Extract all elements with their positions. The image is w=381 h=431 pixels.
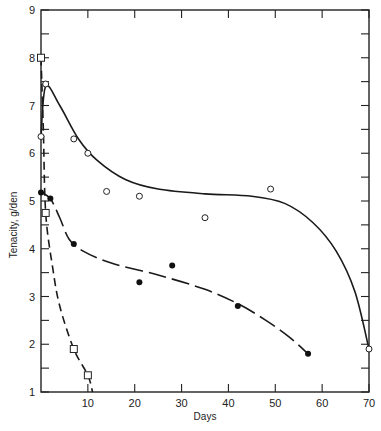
chart: 123456789 10203040506070 Days Tenacity, … — [0, 0, 381, 431]
x-tick-label: 10 — [82, 397, 94, 409]
open-circle-marker — [85, 150, 91, 156]
open-circle-marker — [104, 188, 110, 194]
open-circle-marker — [38, 134, 44, 140]
open-circle-marker — [268, 186, 274, 192]
filled-circle-marker — [169, 262, 175, 268]
plot-frame — [41, 10, 369, 392]
open-circle-marker — [366, 346, 372, 352]
x-tick-label: 40 — [222, 397, 234, 409]
y-tick-label: 2 — [29, 338, 35, 350]
y-tick-label: 6 — [29, 147, 35, 159]
y-tick-label: 1 — [29, 386, 35, 398]
filled-circle-marker — [38, 189, 44, 195]
y-tick-label: 9 — [29, 4, 35, 16]
open-circle-marker — [136, 193, 142, 199]
data-markers — [38, 54, 373, 379]
x-tick-label: 20 — [129, 397, 141, 409]
open-square-marker — [70, 346, 77, 353]
y-tick-label: 7 — [29, 100, 35, 112]
x-tick-label: 50 — [269, 397, 281, 409]
y-axis-ticks: 123456789 — [29, 4, 369, 398]
y-tick-label: 3 — [29, 291, 35, 303]
fitted-curves — [41, 58, 369, 392]
filled-circles-curve — [41, 192, 308, 353]
y-tick-label: 8 — [29, 52, 35, 64]
open-square-marker — [42, 209, 49, 216]
open-circle-marker — [43, 81, 49, 87]
filled-circle-marker — [47, 196, 53, 202]
x-axis-ticks: 10203040506070 — [82, 10, 375, 409]
y-tick-label: 4 — [29, 243, 35, 255]
y-tick-label: 5 — [29, 195, 35, 207]
open-circle-marker — [202, 215, 208, 221]
x-tick-label: 60 — [316, 397, 328, 409]
filled-circle-marker — [235, 303, 241, 309]
open-square-marker — [38, 54, 45, 61]
x-axis-label: Days — [194, 411, 217, 422]
filled-circle-marker — [136, 279, 142, 285]
x-tick-label: 30 — [175, 397, 187, 409]
x-tick-label: 70 — [363, 397, 375, 409]
open-circle-marker — [71, 136, 77, 142]
y-axis-label: Tenacity, g/den — [8, 192, 19, 259]
filled-circle-marker — [71, 241, 77, 247]
filled-circle-marker — [305, 351, 311, 357]
open-square-marker — [84, 372, 91, 379]
